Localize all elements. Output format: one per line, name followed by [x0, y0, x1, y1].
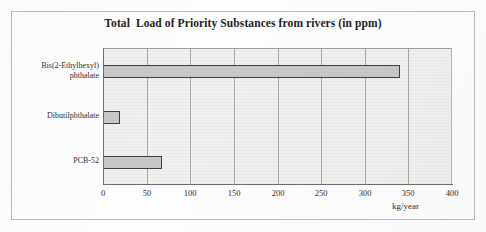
category-axis-labels: Bis(2-Ethylhexyl)phthalateDibutilphthala… [0, 48, 99, 184]
category-label: PCB-52 [3, 156, 99, 166]
bar [103, 65, 400, 78]
value-axis-tick-labels: 050100150200250300350400 [103, 188, 453, 202]
chart-title: Total Load of Priority Substances from r… [11, 17, 475, 29]
category-label: Dibutilphthalate [3, 111, 99, 121]
category-label-line: PCB-52 [3, 156, 99, 166]
tick-label-300: 300 [359, 188, 372, 198]
value-axis-line [103, 48, 104, 185]
tick-label-350: 350 [402, 188, 415, 198]
gridline-350 [408, 49, 409, 184]
bar [103, 111, 120, 124]
category-label: Bis(2-Ethylhexyl)phthalate [3, 61, 99, 81]
category-axis-line [103, 184, 453, 185]
bar [103, 156, 162, 169]
category-label-line: phthalate [3, 71, 99, 81]
tick-label-400: 400 [446, 188, 459, 198]
tick-label-150: 150 [228, 188, 241, 198]
tick-label-200: 200 [272, 188, 285, 198]
axis-unit-label: kg/year [392, 201, 419, 211]
tick-label-0: 0 [101, 188, 105, 198]
tick-label-250: 250 [315, 188, 328, 198]
plot-area [103, 48, 452, 184]
chart-figure: Total Load of Priority Substances from r… [0, 0, 486, 232]
tick-label-100: 100 [184, 188, 197, 198]
category-label-line: Bis(2-Ethylhexyl) [3, 61, 99, 71]
tick-label-50: 50 [143, 188, 152, 198]
category-label-line: Dibutilphthalate [3, 111, 99, 121]
